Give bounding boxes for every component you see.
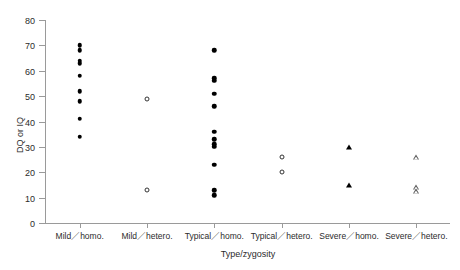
data-point xyxy=(212,137,217,142)
data-point xyxy=(77,74,82,79)
y-axis-tick: 20 xyxy=(39,172,46,173)
data-point xyxy=(346,182,352,187)
scatter-chart: DQ or IQ 01020304050607080 Mild／homo.Mil… xyxy=(0,0,460,270)
data-point xyxy=(212,104,217,109)
data-point xyxy=(77,99,82,104)
data-point xyxy=(212,91,217,96)
y-axis-tick-label: 40 xyxy=(25,118,35,127)
data-point xyxy=(212,188,217,193)
y-axis-tick-label: 70 xyxy=(25,42,35,51)
x-axis-tick-label: Typical／homo. xyxy=(185,231,244,241)
y-axis-tick-label: 0 xyxy=(30,220,35,229)
y-axis-tick: 60 xyxy=(39,71,46,72)
data-point xyxy=(413,155,419,160)
data-point xyxy=(212,162,217,167)
plot-area: 01020304050607080 Mild／homo.Mild／hetero.… xyxy=(45,20,450,224)
y-axis-tick: 80 xyxy=(39,20,46,21)
y-axis-tick-label: 80 xyxy=(25,17,35,26)
data-point xyxy=(77,61,82,66)
x-axis-tick xyxy=(147,223,148,228)
data-point xyxy=(77,43,82,48)
data-point xyxy=(212,79,217,84)
x-axis-tick xyxy=(416,223,417,228)
x-axis-tick-label: Mild／homo. xyxy=(56,231,104,241)
data-point xyxy=(77,134,82,139)
data-point xyxy=(279,155,284,160)
y-axis-tick: 0 xyxy=(39,223,46,224)
x-axis-tick-label: Typical／hetero. xyxy=(251,231,313,241)
data-point xyxy=(145,188,150,193)
y-axis-tick: 70 xyxy=(39,45,46,46)
data-point xyxy=(77,89,82,94)
data-point xyxy=(279,170,284,175)
y-axis-tick: 40 xyxy=(39,122,46,123)
data-point xyxy=(346,144,352,149)
data-point xyxy=(212,48,217,53)
y-axis-tick-label: 30 xyxy=(25,143,35,152)
x-axis-title: Type/zygosity xyxy=(221,249,276,259)
x-axis-tick xyxy=(214,223,215,228)
y-axis-tick-label: 60 xyxy=(25,67,35,76)
y-axis-tick-label: 10 xyxy=(25,194,35,203)
y-axis-title: DQ or IQ xyxy=(16,117,25,153)
data-point xyxy=(77,48,82,53)
x-axis-tick-label: Severe／hetero. xyxy=(385,231,447,241)
y-axis-tick-label: 50 xyxy=(25,93,35,102)
x-axis-tick xyxy=(80,223,81,228)
y-axis-tick: 30 xyxy=(39,147,46,148)
x-axis-tick xyxy=(282,223,283,228)
data-point xyxy=(212,129,217,134)
x-axis-tick-label: Mild／hetero. xyxy=(121,231,172,241)
x-axis-tick xyxy=(349,223,350,228)
data-point xyxy=(145,96,150,101)
y-axis-tick: 10 xyxy=(39,198,46,199)
y-axis-tick-label: 20 xyxy=(25,169,35,178)
data-point xyxy=(413,189,419,194)
x-axis-tick-label: Severe／homo. xyxy=(319,231,379,241)
data-point xyxy=(212,145,217,150)
data-point xyxy=(77,117,82,122)
y-axis-tick: 50 xyxy=(39,96,46,97)
data-point xyxy=(212,193,217,198)
